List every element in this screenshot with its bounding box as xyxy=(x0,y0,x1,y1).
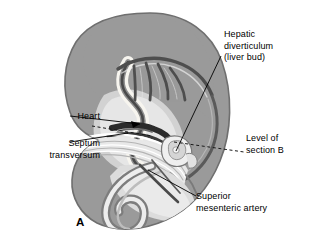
label-septum-transversum: Septum transversum xyxy=(4,138,100,161)
label-heart: Heart xyxy=(38,111,100,123)
label-hepatic-diverticulum: Hepatic diverticulum (liver bud) xyxy=(224,29,273,64)
label-level-of-section-b: Level of section B xyxy=(246,133,284,156)
figure-panel-a: Hepatic diverticulum (liver bud) Heart S… xyxy=(0,0,312,247)
panel-letter: A xyxy=(76,216,84,228)
label-superior-mesenteric-artery: Superior mesenteric artery xyxy=(196,191,267,214)
